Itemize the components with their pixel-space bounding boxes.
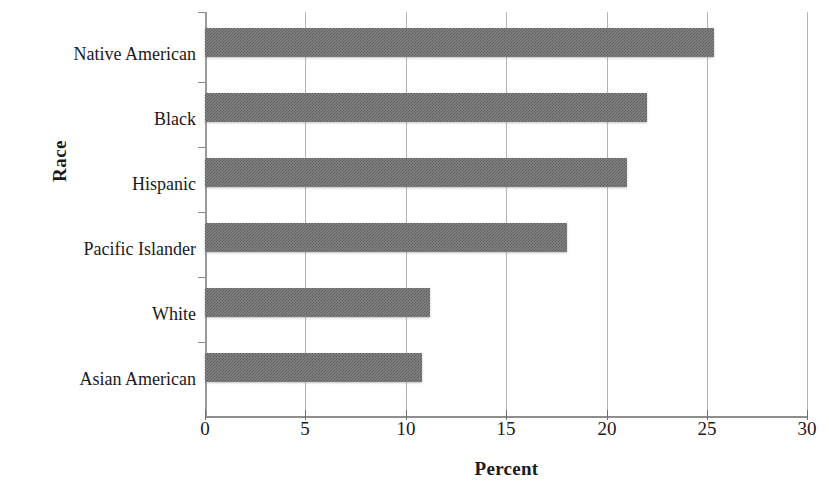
y-axis-tick <box>198 342 205 343</box>
x-axis-title: Percent <box>205 458 808 480</box>
category-label: Asian American <box>6 369 196 390</box>
y-axis-tick <box>198 12 205 13</box>
x-axis-tick-label: 10 <box>376 418 436 440</box>
y-axis-tick <box>198 147 205 148</box>
x-axis-tick-label: 0 <box>175 418 235 440</box>
category-label: Black <box>6 109 196 130</box>
x-axis-tick-label: 15 <box>476 418 536 440</box>
y-axis-tick <box>198 212 205 213</box>
category-label: Hispanic <box>6 174 196 195</box>
x-axis-tick-label: 20 <box>577 418 637 440</box>
y-axis-tick <box>198 82 205 83</box>
x-axis-tick-label: 25 <box>677 418 737 440</box>
category-label: Pacific Islander <box>6 239 196 260</box>
category-label-group: Native American Black Hispanic Pacific I… <box>0 12 196 417</box>
category-label: Native American <box>6 44 196 65</box>
bar-chart: Race Native American Black Hispanic Paci… <box>0 0 829 494</box>
x-axis-tick-label: 30 <box>777 418 829 440</box>
y-axis-tick <box>198 277 205 278</box>
x-axis-tick-label: 5 <box>275 418 335 440</box>
x-axis-tick-label-group: 0 5 10 15 20 25 30 <box>205 0 808 460</box>
category-label: White <box>6 304 196 325</box>
